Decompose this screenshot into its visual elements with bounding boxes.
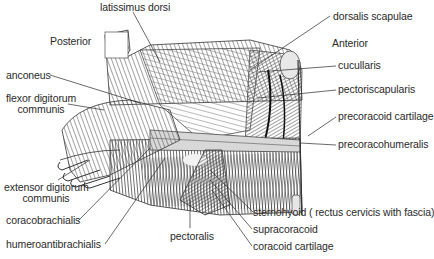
label-latissimus-dorsi: latissimus dorsi: [100, 2, 170, 13]
label-sternohyoid: sternohyoid ( rectus cervicis with fasci…: [253, 207, 434, 218]
label-coracoid-cartilage: coracoid cartilage: [253, 241, 334, 252]
label-precoracohumeralis: precoracohumeralis: [338, 139, 428, 150]
label-anterior: Anterior: [332, 38, 368, 49]
label-extensor-digitorum-communis: extensor digitorum communis: [4, 182, 88, 204]
label-coracobrachialis: coracobrachialis: [6, 215, 80, 226]
label-pectoriscapularis: pectoriscapularis: [338, 84, 415, 95]
label-flexor-line-2: communis: [17, 103, 64, 115]
label-flexor-digitorum-communis: flexor digitorum communis: [6, 93, 76, 115]
label-precoracoid-cartilage: precoracoid cartilage: [338, 111, 433, 122]
label-anconeus: anconeus: [6, 70, 51, 81]
label-supracoracoid: supracoracoid: [253, 224, 318, 235]
label-humeroantibrachialis: humeroantibrachialis: [6, 239, 101, 250]
label-dorsalis-scapulae: dorsalis scapulae: [333, 11, 412, 22]
label-cucullaris: cucullaris: [338, 60, 381, 71]
label-pectoralis: pectoralis: [170, 231, 214, 242]
label-posterior: Posterior: [50, 36, 91, 47]
label-extensor-line-2: communis: [22, 192, 69, 204]
